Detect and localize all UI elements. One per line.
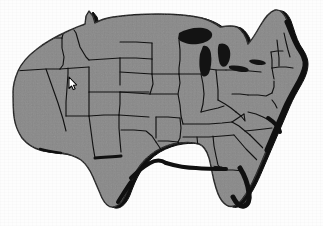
southwest-border-shadow xyxy=(95,156,121,158)
land-group[interactable] xyxy=(13,10,304,207)
border-la-ms xyxy=(178,142,185,166)
map-viewport: Map of the Contiguous United States Cont… xyxy=(0,0,323,226)
united-states-map[interactable] xyxy=(0,0,323,226)
contiguous-us-landmass xyxy=(13,10,304,207)
